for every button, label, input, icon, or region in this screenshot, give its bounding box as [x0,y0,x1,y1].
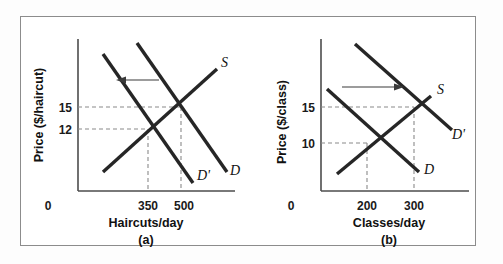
y-tick-label-10-b: 10 [302,137,316,151]
figure-border-box: 15 12 0 350 500 Haircuts/day Price ($/ha… [20,16,476,246]
panel-b: 15 10 0 200 300 Classes/day Price ($/cla… [249,17,477,247]
rightward-shift-arrow [342,84,404,91]
panel-a-chart: 15 12 0 350 500 Haircuts/day Price ($/ha… [21,17,251,247]
demand-curve-label-a: D [229,163,240,178]
demand-shifted-curve-a [103,54,193,183]
x-origin-label-b: 0 [288,199,295,213]
panel-caption-a: (a) [138,233,153,247]
panel-b-chart: 15 10 0 200 300 Classes/day Price ($/cla… [249,17,477,247]
x-axis-title-b: Classes/day [353,216,425,230]
demand-shifted-curve-label-b: D' [451,127,466,142]
y-tick-label-15-a: 15 [59,101,73,115]
supply-curve-label-a: S [221,55,228,70]
x-axis-title-a: Haircuts/day [108,216,183,230]
supply-curve-a [103,69,217,172]
demand-curve-b [327,89,419,172]
x-tick-label-500-a: 500 [174,199,194,213]
y-axis-title-a: Price ($/haircut) [32,68,46,162]
y-tick-label-15-b: 15 [302,101,316,115]
figure-root: 15 12 0 350 500 Haircuts/day Price ($/ha… [0,0,503,264]
demand-shifted-curve-label-a: D' [196,168,211,183]
y-axis-title-b: Price ($/class) [275,80,289,164]
supply-curve-label-b: S [437,82,444,97]
y-tick-label-12-a: 12 [59,123,73,137]
x-tick-label-350-a: 350 [138,199,158,213]
x-tick-label-300-b: 300 [404,199,424,213]
x-origin-label-a: 0 [45,199,52,213]
panel-caption-b: (b) [381,233,397,247]
x-tick-label-200-b: 200 [357,199,377,213]
supply-curve-b [337,96,431,174]
panel-a: 15 12 0 350 500 Haircuts/day Price ($/ha… [21,17,251,247]
demand-curve-label-b: D [423,162,434,177]
